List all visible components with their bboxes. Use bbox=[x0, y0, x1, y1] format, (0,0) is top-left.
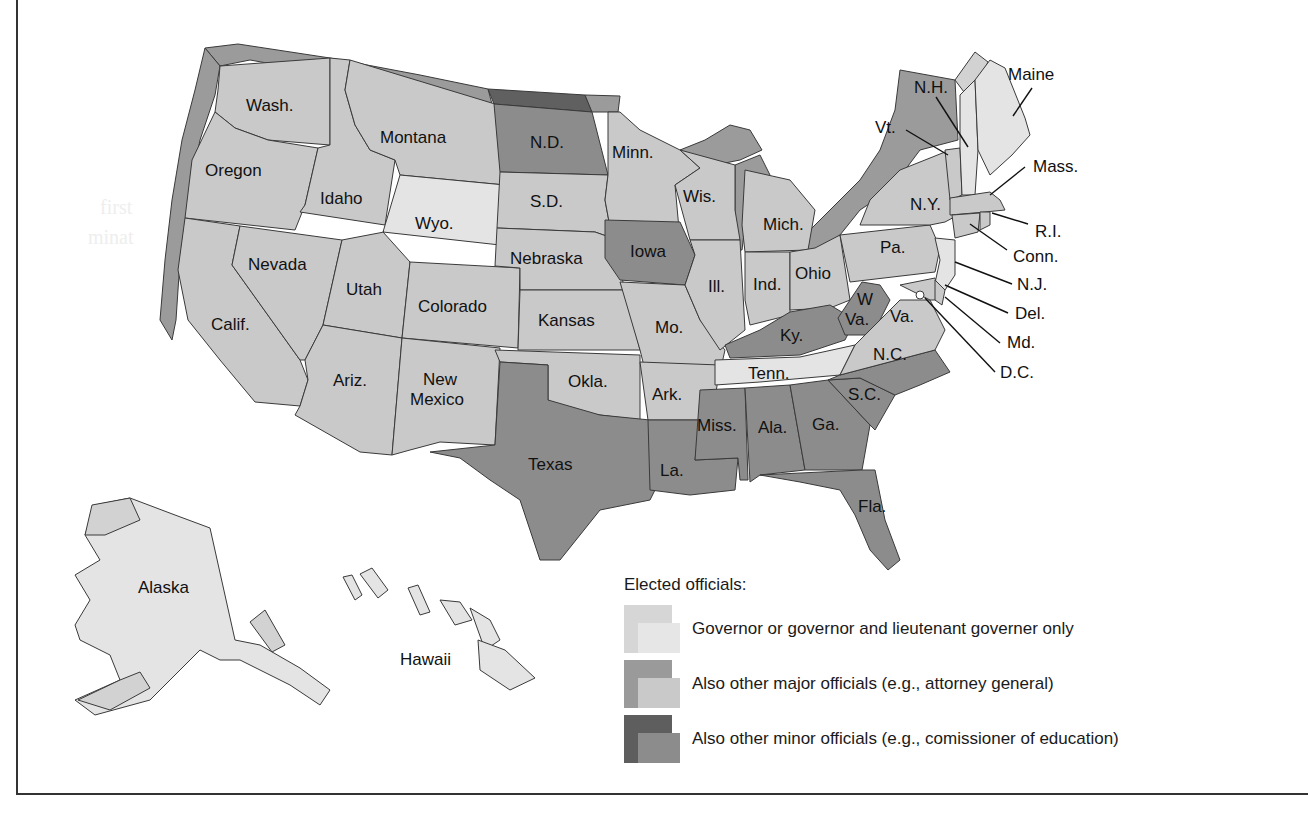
label-montana: Montana bbox=[380, 128, 447, 147]
label-okla: Okla. bbox=[568, 372, 608, 391]
label-ri: R.I. bbox=[1035, 222, 1061, 241]
label-ark: Ark. bbox=[652, 385, 682, 404]
label-newmexico: Mexico bbox=[410, 390, 464, 409]
label-la: La. bbox=[660, 461, 684, 480]
label-nj: N.J. bbox=[1017, 275, 1047, 294]
label-idaho: Idaho bbox=[320, 189, 363, 208]
state-alaska bbox=[75, 498, 330, 715]
legend: Elected officials: Governor or governor … bbox=[624, 575, 1119, 766]
label-md: Md. bbox=[1007, 333, 1035, 352]
label-mo: Mo. bbox=[655, 318, 683, 337]
label-wis: Wis. bbox=[683, 187, 716, 206]
legend-swatch-light bbox=[624, 605, 680, 653]
label-newmexico: New bbox=[423, 370, 458, 389]
label-texas: Texas bbox=[528, 455, 572, 474]
state-fla bbox=[760, 470, 900, 570]
label-ny: N.Y. bbox=[910, 195, 941, 214]
label-del: Del. bbox=[1015, 304, 1045, 323]
label-maine: Maine bbox=[1008, 65, 1054, 84]
label-ky: Ky. bbox=[780, 326, 803, 345]
legend-label: Also other minor officials (e.g., comiss… bbox=[692, 729, 1119, 749]
label-wva: Va. bbox=[845, 310, 869, 329]
label-ohio: Ohio bbox=[795, 264, 831, 283]
label-kansas: Kansas bbox=[538, 311, 595, 330]
label-alaska: Alaska bbox=[138, 578, 190, 597]
label-ala: Ala. bbox=[758, 418, 787, 437]
label-wyo: Wyo. bbox=[415, 214, 454, 233]
legend-item-minor-officials: Also other minor officials (e.g., comiss… bbox=[624, 711, 1119, 766]
dc-marker bbox=[916, 291, 924, 299]
label-nd: N.D. bbox=[530, 133, 564, 152]
label-ill: Ill. bbox=[708, 277, 725, 296]
label-oregon: Oregon bbox=[205, 161, 262, 180]
label-wva: W bbox=[857, 290, 873, 309]
legend-swatch-medium bbox=[624, 660, 680, 708]
label-mich: Mich. bbox=[763, 215, 804, 234]
label-calif: Calif. bbox=[211, 315, 250, 334]
label-nh: N.H. bbox=[914, 78, 948, 97]
label-pa: Pa. bbox=[880, 238, 906, 257]
label-minn: Minn. bbox=[612, 143, 654, 162]
state-conn bbox=[952, 213, 980, 238]
label-va: Va. bbox=[890, 307, 914, 326]
label-tenn: Tenn. bbox=[748, 364, 790, 383]
label-ariz: Ariz. bbox=[333, 371, 367, 390]
label-colorado: Colorado bbox=[418, 297, 487, 316]
label-nevada: Nevada bbox=[248, 255, 307, 274]
state-nj bbox=[935, 238, 955, 290]
label-iowa: Iowa bbox=[630, 242, 666, 261]
state-ri bbox=[980, 212, 990, 230]
legend-label: Governor or governor and lieutenant gove… bbox=[692, 619, 1074, 639]
legend-swatch-dark bbox=[624, 715, 680, 763]
label-sc: S.C. bbox=[848, 385, 881, 404]
legend-title: Elected officials: bbox=[624, 575, 1119, 595]
label-nebraska: Nebraska bbox=[510, 249, 583, 268]
label-wash: Wash. bbox=[246, 96, 294, 115]
label-utah: Utah bbox=[346, 280, 382, 299]
state-wyo bbox=[383, 175, 505, 245]
label-miss: Miss. bbox=[697, 416, 737, 435]
state-hawaii bbox=[343, 568, 535, 690]
label-hawaii: Hawaii bbox=[400, 650, 451, 669]
legend-label: Also other major officials (e.g., attorn… bbox=[692, 674, 1054, 694]
legend-item-major-officials: Also other major officials (e.g., attorn… bbox=[624, 656, 1119, 711]
label-fla: Fla. bbox=[858, 497, 886, 516]
label-ga: Ga. bbox=[812, 415, 839, 434]
label-nc: N.C. bbox=[873, 345, 907, 364]
label-mass: Mass. bbox=[1033, 157, 1078, 176]
state-mich bbox=[742, 170, 815, 252]
label-sd: S.D. bbox=[530, 192, 563, 211]
label-vt: Vt. bbox=[875, 118, 896, 137]
label-conn: Conn. bbox=[1013, 247, 1058, 266]
legend-item-governor-only: Governor or governor and lieutenant gove… bbox=[624, 601, 1119, 656]
label-ind: Ind. bbox=[753, 275, 781, 294]
label-dc: D.C. bbox=[1000, 363, 1034, 382]
